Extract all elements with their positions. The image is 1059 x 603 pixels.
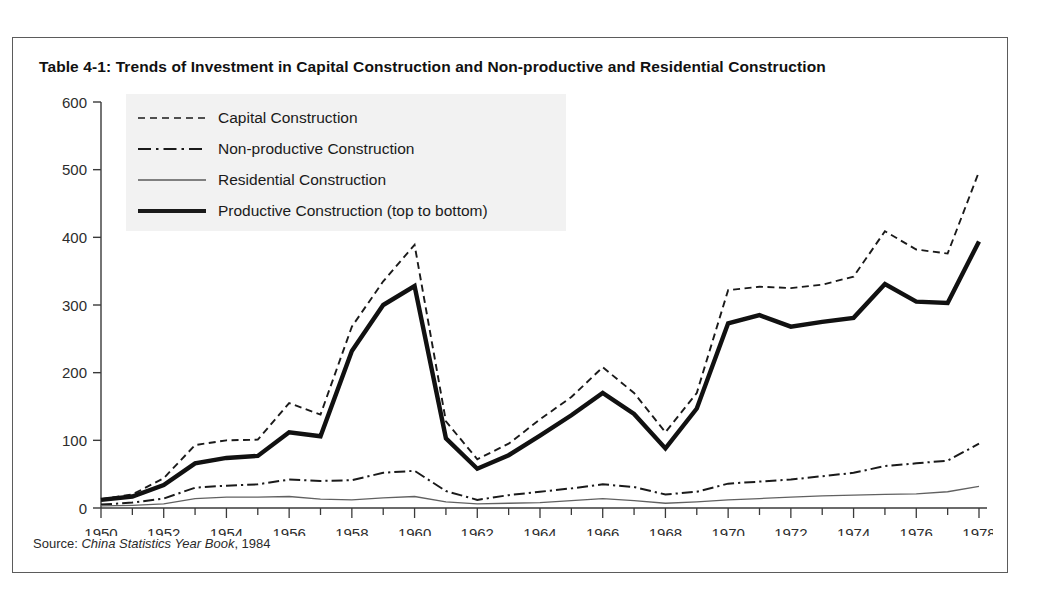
x-axis-tick-label: 1960 [398, 525, 431, 536]
y-axis-tick-label: 300 [62, 297, 87, 314]
figure-frame: Table 4-1: Trends of Investment in Capit… [12, 37, 1008, 573]
x-axis-tick-label: 1950 [84, 525, 117, 536]
y-axis-tick-label: 0 [79, 500, 87, 517]
x-axis-tick-label: 1968 [649, 525, 682, 536]
source-prefix: Source: [33, 536, 78, 551]
y-axis-tick-label: 500 [62, 161, 87, 178]
chart-legend: Capital ConstructionNon-productive Const… [126, 94, 566, 231]
x-axis-tick-label: 1966 [586, 525, 619, 536]
dashed-line-icon [136, 111, 208, 125]
x-axis-tick-label: 1958 [335, 525, 368, 536]
legend-item[interactable]: Non-productive Construction [136, 133, 566, 164]
x-axis-tick-label: 1962 [461, 525, 494, 536]
legend-item-label: Residential Construction [218, 171, 386, 189]
x-axis-tick-label: 1976 [900, 525, 933, 536]
y-axis-tick-label: 400 [62, 229, 87, 246]
thin-line-icon [136, 173, 208, 187]
x-axis-tick-label: 1978 [962, 525, 993, 536]
y-axis-tick-label: 200 [62, 364, 87, 381]
thick-line-icon [136, 204, 208, 218]
y-axis-tick-label: 100 [62, 432, 87, 449]
source-year: , 1984 [234, 536, 270, 551]
x-axis-tick-label: 1952 [147, 525, 180, 536]
source-title: China Statistics Year Book [81, 536, 234, 551]
legend-item-label: Capital Construction [218, 109, 358, 127]
legend-item-label: Productive Construction (top to bottom) [218, 202, 488, 220]
x-axis-tick-label: 1974 [837, 525, 870, 536]
x-axis-tick-label: 1964 [523, 525, 556, 536]
legend-item-label: Non-productive Construction [218, 140, 414, 158]
figure-title: Table 4-1: Trends of Investment in Capit… [39, 58, 979, 76]
x-axis-tick-label: 1970 [711, 525, 744, 536]
legend-item[interactable]: Residential Construction [136, 164, 566, 195]
x-axis-tick-label: 1972 [774, 525, 807, 536]
y-axis-tick-label: 600 [62, 94, 87, 111]
figure-title-text: Trends of Investment in Capital Construc… [116, 58, 826, 75]
figure-table-number: Table 4-1: [39, 58, 111, 75]
x-axis-tick-label: 1956 [272, 525, 305, 536]
x-axis-tick-label: 1954 [210, 525, 243, 536]
source-note: Source: China Statistics Year Book, 1984 [33, 536, 271, 551]
legend-item[interactable]: Capital Construction [136, 102, 566, 133]
legend-item[interactable]: Productive Construction (top to bottom) [136, 195, 566, 226]
dash-dot-line-icon [136, 142, 208, 156]
